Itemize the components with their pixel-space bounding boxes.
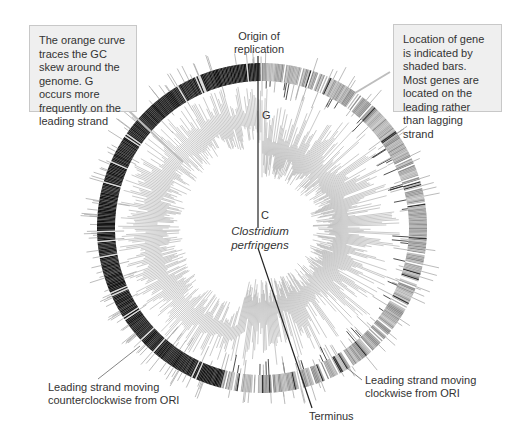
cw-strand-line2: clockwise from ORI (365, 387, 476, 400)
organism-name: Clostridium perfringens (205, 224, 315, 252)
gc-skew-callout: The orange curve traces the GC skew arou… (29, 25, 137, 112)
cw-strand-line1: Leading strand moving (365, 374, 476, 387)
gc-skew-callout-text: The orange curve traces the GC skew arou… (39, 34, 125, 127)
ccw-strand-leader (98, 346, 140, 379)
skew-g-label: G (262, 109, 271, 122)
terminus-label: Terminus (309, 410, 354, 423)
ccw-strand-line2: counterclockwise from ORI (48, 394, 179, 407)
gene-location-callout: Location of gene is indicated by shaded … (393, 24, 502, 112)
organism-name-line1: Clostridium (205, 224, 315, 238)
organism-name-line2: perfringens (205, 238, 315, 252)
gene-location-leader (355, 72, 390, 93)
skew-c-label: C (261, 209, 269, 222)
ccw-strand-label: Leading strand moving counterclockwise f… (48, 381, 179, 407)
cw-strand-label: Leading strand moving clockwise from ORI (365, 374, 476, 400)
origin-label-line1: Origin of (220, 30, 298, 43)
origin-label: Origin of replication (220, 30, 298, 56)
origin-label-line2: replication (220, 43, 298, 56)
ccw-strand-line1: Leading strand moving (48, 381, 179, 394)
